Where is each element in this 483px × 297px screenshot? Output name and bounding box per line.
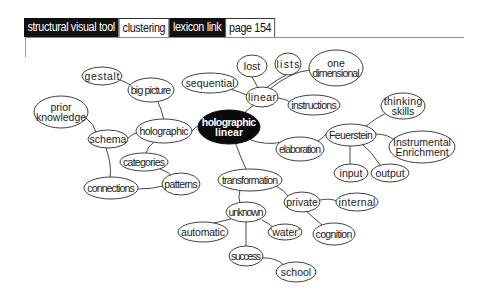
edge-holographic-schema bbox=[128, 133, 137, 138]
node-success: success bbox=[229, 246, 263, 266]
node-cognition: cognition bbox=[313, 223, 355, 245]
node-categories: categories bbox=[120, 153, 168, 171]
node-label: skills bbox=[392, 105, 415, 117]
node-label: input bbox=[340, 167, 363, 179]
edge-linear-sequential bbox=[230, 89, 247, 95]
node-thinking: thinkingskills bbox=[381, 93, 425, 119]
node-label: lost bbox=[244, 60, 260, 72]
node-gestalt: gestalt bbox=[82, 67, 122, 85]
node-label: Feuerstein bbox=[329, 129, 373, 141]
edge-categories-patterns bbox=[160, 169, 171, 175]
edge-holographic-categories bbox=[146, 142, 154, 153]
node-label: patterns bbox=[164, 178, 197, 190]
node-label: school bbox=[281, 266, 311, 278]
edge-private-internal bbox=[320, 199, 337, 201]
node-internal: internal bbox=[336, 193, 378, 211]
node-label: elaboration bbox=[279, 143, 321, 155]
node-label: categories bbox=[123, 156, 165, 168]
node-private: private bbox=[284, 192, 320, 212]
node-label: linear bbox=[248, 91, 277, 103]
node-schema: schema bbox=[88, 130, 128, 148]
node-label: instructions bbox=[291, 99, 337, 111]
edge-transformation-private bbox=[276, 186, 288, 196]
node-label: output bbox=[375, 167, 404, 179]
node-label: unknown bbox=[229, 206, 264, 218]
edge-schema-prior bbox=[86, 118, 96, 132]
node-patterns: patterns bbox=[162, 173, 200, 195]
node-transformation: transformation bbox=[218, 169, 282, 191]
node-label: Enrichment bbox=[395, 146, 448, 158]
edge-private-cognition bbox=[306, 211, 322, 225]
node-label: automatic bbox=[181, 226, 225, 238]
node-hl: holographiclinear bbox=[198, 110, 260, 144]
node-sequential: sequential bbox=[182, 73, 238, 93]
node-connections: connections bbox=[84, 177, 138, 199]
edge-feuerstein-output bbox=[362, 144, 380, 165]
node-onedim: onedimensional bbox=[309, 50, 363, 86]
node-label: gestalt bbox=[85, 70, 120, 82]
node-feuerstein: Feuerstein bbox=[326, 124, 376, 146]
edge-linear-lost bbox=[252, 77, 258, 88]
node-output: output bbox=[371, 164, 409, 182]
node-bigpicture: big picture bbox=[128, 78, 174, 102]
node-water: 'water' bbox=[268, 224, 302, 240]
edge-success-school bbox=[262, 258, 284, 265]
edge-hl-elaboration bbox=[248, 139, 282, 143]
node-linear: linear bbox=[246, 87, 278, 107]
node-label: private bbox=[286, 196, 318, 208]
node-label: transformation bbox=[222, 174, 278, 186]
edge-holographic-bigpicture bbox=[158, 102, 164, 120]
node-label: 'water' bbox=[270, 226, 300, 238]
node-label: dimensional bbox=[312, 67, 359, 79]
edge-feuerstein-ie bbox=[375, 134, 394, 140]
node-lists: lists bbox=[275, 53, 301, 75]
node-label: success bbox=[231, 250, 261, 262]
node-label: big picture bbox=[131, 84, 171, 96]
node-instructions: instructions bbox=[288, 95, 340, 115]
mind-map: holographiclinearlinearlostlistsonedimen… bbox=[0, 0, 483, 297]
node-ie: InstrumentalEnrichment bbox=[389, 131, 455, 163]
edge-linear-instructions bbox=[278, 98, 290, 102]
node-label: sequential bbox=[186, 77, 235, 89]
node-label: linear bbox=[215, 126, 243, 138]
node-lost: lost bbox=[237, 55, 267, 77]
node-school: school bbox=[276, 262, 316, 282]
edge-transformation-unknown bbox=[239, 190, 240, 203]
node-prior: priorknowledge bbox=[34, 96, 88, 128]
node-label: connections bbox=[87, 182, 134, 194]
node-label: knowledge bbox=[36, 111, 86, 123]
node-elaboration: elaboration bbox=[276, 137, 324, 161]
node-holographic: holographic bbox=[136, 119, 192, 143]
node-label: schema bbox=[90, 133, 127, 145]
node-label: lists bbox=[277, 58, 300, 70]
edge-linear-lists bbox=[266, 75, 286, 88]
node-input: input bbox=[334, 164, 368, 182]
node-label: cognition bbox=[316, 228, 353, 240]
edge-connections-patterns bbox=[138, 186, 163, 189]
edge-feuerstein-thinking bbox=[366, 113, 386, 126]
node-automatic: automatic bbox=[178, 222, 228, 242]
node-label: holographic bbox=[140, 125, 189, 137]
node-unknown: unknown bbox=[226, 202, 266, 222]
edge-hl-transformation bbox=[235, 142, 246, 169]
node-label: internal bbox=[339, 196, 376, 208]
edge-schema-connections bbox=[106, 148, 111, 178]
